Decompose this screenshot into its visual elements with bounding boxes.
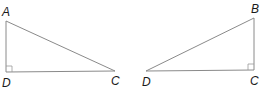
right-angle-marker-c — [248, 64, 254, 70]
triangle-adc-outline — [6, 21, 115, 72]
vertex-label-b: B — [251, 2, 259, 16]
vertex-label-a: A — [1, 5, 10, 19]
vertex-label-d2: D — [142, 75, 151, 89]
vertex-label-c: C — [111, 74, 120, 88]
vertex-label-c2: C — [250, 74, 259, 88]
triangle-bcd: B C D — [142, 2, 259, 89]
right-angle-marker-d — [6, 66, 12, 72]
vertex-label-d: D — [2, 76, 11, 90]
figure-canvas: A D C B C D — [0, 0, 261, 90]
triangle-adc: A D C — [1, 5, 120, 90]
triangle-bcd-outline — [146, 18, 254, 71]
